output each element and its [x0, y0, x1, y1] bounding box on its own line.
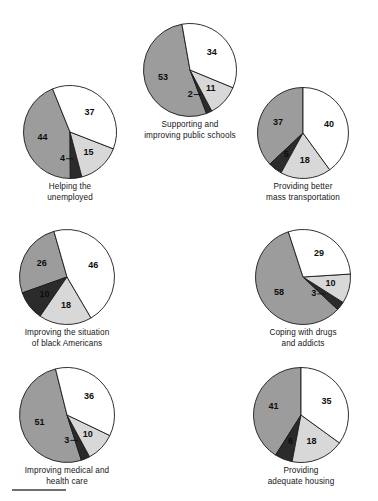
pie-chart-sheet: 4441537Helping the unemployed5321134Supp… [0, 0, 378, 501]
pie-chart-providing-adequate-housing: 4161835Providing adequate housing [252, 366, 350, 487]
pie-chart-caption: Supporting and improving public schools [142, 120, 238, 141]
pie-chart-caption: Improving the situation of black America… [18, 328, 116, 349]
slice-value-label: 37 [273, 117, 283, 127]
pie-chart-helping-the-unemployed: 4441537Helping the unemployed [22, 84, 118, 203]
slice-value-label: 10 [39, 289, 49, 299]
pie-chart-improving-medical-and-health-care: 5131036Improving medical and health care [18, 366, 116, 487]
slice-value-label: 18 [61, 300, 71, 310]
slice-value-label: 10 [326, 278, 336, 288]
pie-graphic: 4161835 [252, 366, 350, 464]
slice-value-label: 53 [158, 72, 168, 82]
slice-value-label: 5 [284, 149, 289, 159]
pie-chart-caption: Helping the unemployed [22, 182, 118, 203]
slice-value-label: 58 [274, 287, 284, 297]
slice-value-label: 40 [324, 119, 334, 129]
pie-graphic: 5321134 [142, 22, 238, 118]
pie-chart-coping-with-drugs-and-addicts: 5831029Coping with drugs and addicts [254, 228, 352, 349]
slice-value-label: 2 [188, 89, 193, 99]
slice-value-label: 26 [37, 258, 47, 268]
slice-value-label: 29 [314, 248, 324, 258]
slice-value-label: 36 [84, 391, 94, 401]
footer-rule [12, 489, 66, 491]
slice-value-label: 46 [88, 260, 98, 270]
slice-value-label: 41 [269, 401, 279, 411]
pie-graphic: 5831029 [254, 228, 352, 326]
pie-chart-caption: Coping with drugs and addicts [254, 328, 352, 349]
pie-chart-caption: Providing better mass transportation [256, 182, 350, 203]
slice-value-label: 44 [38, 132, 48, 142]
pie-chart-caption: Improving medical and health care [18, 466, 116, 487]
pie-graphic: 3751840 [256, 86, 350, 180]
slice-value-label: 18 [306, 436, 316, 446]
pie-chart-providing-better-mass-transportation: 3751840Providing better mass transportat… [256, 86, 350, 203]
slice-value-label: 35 [321, 396, 331, 406]
slice-value-label: 37 [85, 107, 95, 117]
pie-chart-caption: Providing adequate housing [252, 466, 350, 487]
slice-value-label: 4 [60, 153, 65, 163]
pie-chart-supporting-and-improving-public-schools: 5321134Supporting and improving public s… [142, 22, 238, 141]
slice-value-label: 51 [35, 417, 45, 427]
pie-graphic: 4441537 [22, 84, 118, 180]
pie-graphic: 5131036 [18, 366, 116, 464]
pie-chart-improving-the-situation-of-black-americans: 26101846Improving the situation of black… [18, 228, 116, 349]
slice-value-label: 15 [84, 147, 94, 157]
pie-graphic: 26101846 [18, 228, 116, 326]
slice-value-label: 3 [64, 435, 69, 445]
slice-value-label: 10 [83, 429, 93, 439]
slice-value-label: 3 [311, 288, 316, 298]
slice-value-label: 18 [300, 155, 310, 165]
slice-value-label: 6 [288, 436, 293, 446]
slice-value-label: 11 [206, 83, 216, 93]
slice-value-label: 34 [207, 47, 217, 57]
